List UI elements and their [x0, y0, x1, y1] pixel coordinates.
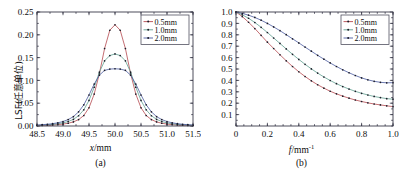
- series-marker: [367, 102, 369, 104]
- series-marker: [354, 75, 356, 77]
- series-marker: [348, 72, 350, 74]
- y-tick-label: 0.3: [221, 87, 233, 97]
- series-marker: [93, 93, 95, 95]
- series-marker: [323, 58, 325, 60]
- series-marker: [292, 53, 294, 55]
- series-marker: [304, 76, 306, 78]
- series-marker: [73, 121, 75, 123]
- series-marker: [273, 26, 275, 28]
- series-marker: [267, 23, 269, 25]
- series-marker: [93, 83, 95, 85]
- series-marker: [367, 94, 369, 96]
- series-marker: [119, 29, 121, 31]
- panel-b-mtf: 0.10.20.30.40.50.60.70.80.91.000.20.40.6…: [201, 0, 402, 178]
- x-tick-label: 49.0: [55, 129, 71, 139]
- series-marker: [386, 105, 388, 107]
- series-marker: [304, 46, 306, 48]
- x-tick-label: 51.5: [185, 129, 201, 139]
- x-axis-title-a-unit: /mm: [94, 143, 111, 153]
- series-marker: [104, 70, 106, 72]
- series-marker: [298, 71, 300, 73]
- series-marker: [161, 119, 163, 121]
- series-marker: [109, 55, 111, 57]
- series-marker: [151, 119, 153, 121]
- y-tick-label: 0.4: [221, 76, 233, 86]
- series-marker: [62, 121, 64, 123]
- y-axis-title-a: LSF(任意单位): [12, 61, 25, 120]
- y-tick-label: 0.6: [221, 53, 233, 63]
- series-marker: [342, 95, 344, 97]
- y-tick-label: 0.20: [18, 30, 34, 40]
- x-axis-title-a: x/mm: [0, 143, 201, 153]
- series-marker: [367, 79, 369, 81]
- series-marker: [41, 124, 43, 126]
- series-marker: [254, 22, 256, 24]
- series-marker: [140, 107, 142, 109]
- series-marker: [73, 116, 75, 118]
- x-tick-label: 50.5: [133, 129, 149, 139]
- series-marker: [57, 122, 59, 124]
- series-marker: [361, 92, 363, 94]
- series-marker: [248, 14, 250, 16]
- series-marker: [354, 99, 356, 101]
- series-marker: [348, 88, 350, 90]
- series-marker: [93, 86, 95, 88]
- series-marker: [361, 101, 363, 103]
- legend-marker: [147, 29, 149, 31]
- series-marker: [241, 16, 243, 18]
- series-marker: [292, 38, 294, 40]
- series-marker: [241, 13, 243, 15]
- series-marker: [109, 29, 111, 31]
- series-marker: [171, 122, 173, 124]
- series-marker: [254, 28, 256, 30]
- series-marker: [78, 111, 80, 113]
- series-marker: [267, 41, 269, 43]
- series-marker: [373, 80, 375, 82]
- y-tick-label: 0.2: [221, 98, 232, 108]
- series-marker: [140, 94, 142, 96]
- series-marker: [83, 104, 85, 106]
- series-marker: [130, 71, 132, 73]
- series-marker: [125, 48, 127, 50]
- series-marker: [156, 121, 158, 123]
- series-marker: [273, 37, 275, 39]
- series-marker: [114, 24, 116, 26]
- series-marker: [323, 87, 325, 89]
- series-marker: [323, 76, 325, 78]
- series-marker: [298, 42, 300, 44]
- series-marker: [298, 59, 300, 61]
- series-marker: [317, 72, 319, 74]
- series-marker: [361, 77, 363, 79]
- series-marker: [329, 62, 331, 64]
- series-marker: [177, 123, 179, 125]
- series-marker: [145, 104, 147, 106]
- series-marker: [248, 21, 250, 23]
- series-marker: [88, 107, 90, 109]
- series-marker: [248, 17, 250, 19]
- y-tick-label: 0.9: [221, 19, 233, 29]
- series-marker: [311, 68, 313, 70]
- panel-a-lsf: 0.000.050.100.150.200.2548.549.049.550.0…: [0, 0, 201, 178]
- legend-marker: [347, 21, 349, 23]
- series-marker: [156, 119, 158, 121]
- series-marker: [285, 34, 287, 36]
- series-marker: [151, 115, 153, 117]
- legend-marker: [147, 37, 149, 39]
- series-marker: [254, 17, 256, 19]
- series-marker: [151, 111, 153, 113]
- x-tick-label: 0.2: [262, 129, 273, 139]
- x-axis-title-b: f/mm-1: [201, 143, 402, 155]
- series-marker: [311, 80, 313, 82]
- series-marker: [279, 54, 281, 56]
- x-axis-title-b-exponent: -1: [309, 143, 314, 150]
- series-marker: [67, 121, 69, 123]
- series-marker: [317, 84, 319, 86]
- series-marker: [279, 43, 281, 45]
- x-tick-label: 49.5: [81, 129, 97, 139]
- series-marker: [373, 103, 375, 105]
- series-marker: [336, 66, 338, 68]
- series-marker: [104, 48, 106, 50]
- series-marker: [135, 83, 137, 85]
- series-marker: [99, 71, 101, 73]
- series-marker: [342, 86, 344, 88]
